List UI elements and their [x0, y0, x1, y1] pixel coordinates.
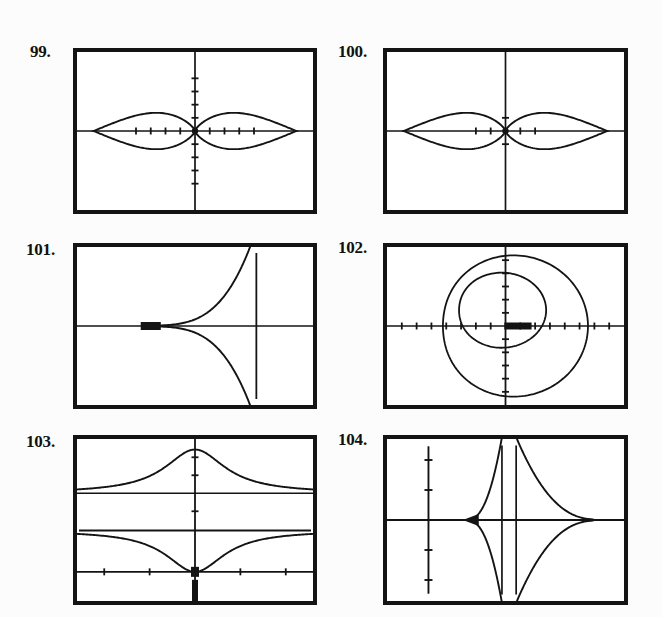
problem-number-104: 104. — [338, 430, 367, 450]
calculator-screen-102 — [383, 243, 628, 409]
polar-graph-101 — [77, 247, 313, 405]
polar-graph-103 — [77, 439, 313, 601]
problem-number-102: 102. — [338, 238, 367, 258]
calculator-screen-103 — [73, 435, 317, 605]
problem-number-101: 101. — [26, 240, 55, 260]
polar-graph-100 — [387, 52, 624, 210]
calculator-screen-104 — [383, 435, 628, 605]
calculator-screen-99 — [73, 48, 317, 214]
problem-number-100: 100. — [338, 42, 367, 62]
calculator-screen-100 — [383, 48, 628, 214]
worksheet-page: 99.100.101.102.103.104. — [0, 0, 662, 617]
polar-graph-104 — [387, 439, 624, 601]
problem-number-103: 103. — [26, 432, 55, 452]
calculator-screen-101 — [73, 243, 317, 409]
polar-graph-99 — [77, 52, 313, 210]
problem-grid: 99.100.101.102.103.104. — [0, 0, 662, 617]
problem-number-99: 99. — [30, 42, 51, 62]
polar-graph-102 — [387, 247, 624, 405]
